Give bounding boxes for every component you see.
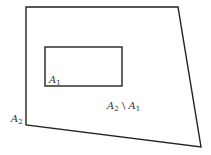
- label-a2-sub: 2: [18, 118, 22, 126]
- label-a2-minus-a1: A2 \ A1: [107, 101, 140, 113]
- label-a1-sub: 1: [56, 79, 60, 87]
- set-difference-diagram: [0, 0, 211, 155]
- label-a2: A2: [11, 114, 23, 126]
- label-a1: A1: [49, 75, 61, 87]
- set-difference-operator: \: [119, 100, 129, 111]
- diff-right-sub: 1: [136, 105, 140, 113]
- diff-right-base: A: [128, 100, 135, 111]
